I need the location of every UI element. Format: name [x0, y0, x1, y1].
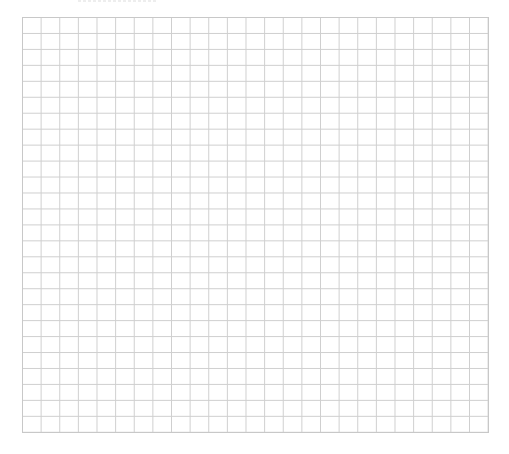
blank-grid-canvas	[22, 17, 489, 433]
cropped-header-text	[78, 0, 158, 2]
cropped-text-sliver	[78, 0, 158, 2]
